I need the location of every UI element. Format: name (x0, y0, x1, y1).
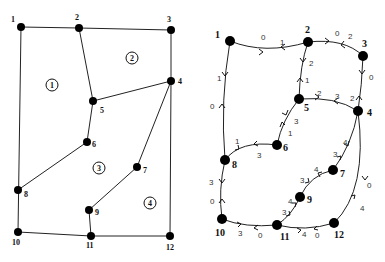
node-1 (225, 36, 235, 46)
node-6 (83, 138, 91, 146)
edge-weight: 3 (335, 92, 340, 101)
edge-weight: 4 (343, 138, 348, 147)
node-8 (220, 155, 230, 165)
node-label: 7 (143, 166, 147, 175)
edge-weight: 2 (348, 32, 353, 41)
node-4 (353, 106, 363, 116)
region-label: 4 (148, 199, 152, 208)
node-5 (89, 97, 97, 105)
node-label: 10 (12, 238, 20, 247)
node-label: 8 (232, 159, 237, 170)
node-label: 3 (167, 15, 171, 24)
edge-weight: 3 (238, 229, 243, 238)
node-2 (75, 24, 83, 32)
node-7 (133, 163, 141, 171)
node-10 (217, 214, 227, 224)
edge-weight: 4 (360, 204, 365, 213)
node-1 (17, 23, 25, 31)
edge-weight: 3 (209, 178, 214, 187)
node-12 (329, 218, 339, 228)
edge-weight: 3 (257, 151, 262, 160)
edge-weight: 2 (350, 94, 355, 103)
node-label: 1 (215, 29, 220, 40)
edge-weight: 3 (294, 117, 299, 126)
node-11 (272, 220, 282, 230)
left-nodes: 123456789101112 (11, 13, 182, 252)
node-label: 5 (100, 106, 104, 115)
node-11 (87, 232, 95, 240)
node-5 (294, 94, 304, 104)
edge-weight: 0 (369, 73, 374, 82)
region-label: 2 (130, 54, 134, 63)
node-9 (85, 206, 93, 214)
node-label: 6 (92, 140, 96, 149)
node-8 (14, 186, 22, 194)
right-directed-graph: 123456789101112 010221022310311343433043… (209, 24, 374, 242)
edge-weight: 2 (317, 89, 322, 98)
edge-weight: 0 (367, 181, 372, 190)
left-regions: 1234 (46, 52, 156, 209)
edge-weight: 4 (314, 165, 319, 174)
figure-canvas: 123456789101112 1234 (0, 0, 385, 262)
edge-weight: 1 (288, 129, 293, 138)
node-12 (166, 232, 174, 240)
node-label: 12 (334, 229, 344, 240)
node-label: 8 (24, 190, 28, 199)
edge-weight: 1 (235, 137, 240, 146)
edge-weights: 010221022310311343433043043040 (209, 29, 374, 240)
node-label: 5 (304, 102, 309, 113)
node-label: 12 (166, 243, 174, 252)
node-label: 1 (11, 15, 15, 24)
node-label: 9 (307, 194, 312, 205)
edge-weight: 3 (333, 150, 338, 159)
node-label: 2 (305, 24, 310, 35)
node-label: 7 (340, 168, 345, 179)
edge-weight: 1 (217, 74, 222, 83)
edge-weight: 4 (288, 197, 293, 206)
edge-weight: 0 (261, 33, 266, 42)
edge-weight: 3 (282, 208, 287, 217)
node-label: 2 (75, 13, 79, 22)
node-label: 3 (362, 38, 367, 49)
node-label: 10 (215, 227, 225, 238)
edge-weight: 1 (305, 76, 310, 85)
edge-weight: 1 (280, 38, 285, 47)
node-9 (295, 192, 305, 202)
node-label: 11 (86, 241, 94, 250)
node-label: 11 (280, 231, 289, 242)
node-7 (328, 165, 338, 175)
node-3 (358, 51, 368, 61)
edge-weight: 0 (210, 102, 215, 111)
node-6 (272, 140, 282, 150)
region-label: 3 (97, 164, 101, 173)
edge-weight: 0 (335, 29, 340, 38)
edge-weight: 0 (210, 197, 215, 206)
node-label: 9 (95, 208, 99, 217)
edge-weight: 2 (309, 59, 314, 68)
region-label: 1 (50, 81, 54, 90)
node-3 (167, 26, 175, 34)
node-label: 4 (178, 77, 182, 86)
node-label: 6 (283, 142, 288, 153)
node-label: 4 (367, 107, 372, 118)
edge-weight: 4 (302, 230, 307, 239)
edge-weight: 0 (315, 231, 320, 240)
node-4 (167, 77, 175, 85)
node-2 (303, 37, 313, 47)
left-mesh-diagram: 123456789101112 1234 (11, 13, 182, 252)
edge-weight: 0 (258, 231, 263, 240)
edge-weight: 3 (300, 176, 305, 185)
direction-arrows (219, 38, 368, 233)
node-10 (14, 228, 22, 236)
